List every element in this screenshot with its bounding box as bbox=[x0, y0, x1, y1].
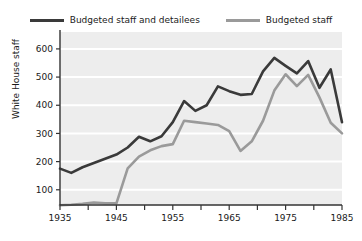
legend-label-budgeted-staff-and-detailees: Budgeted staff and detailees bbox=[70, 16, 200, 25]
chart-legend: Budgeted staff and detailees Budgeted st… bbox=[0, 12, 362, 28]
y-tick-label: 500 bbox=[36, 72, 53, 82]
y-tick-label: 200 bbox=[36, 157, 53, 167]
y-tick-label: 600 bbox=[36, 44, 53, 54]
legend-entry-budgeted-staff-and-detailees: Budgeted staff and detailees bbox=[30, 16, 200, 25]
legend-entry-budgeted-staff: Budgeted staff bbox=[226, 16, 332, 25]
chart-figure: Budgeted staff and detailees Budgeted st… bbox=[0, 0, 362, 241]
y-tick-label: 300 bbox=[36, 129, 53, 139]
y-tick-label: 100 bbox=[36, 185, 53, 195]
x-tick-label: 1935 bbox=[49, 213, 72, 223]
y-tick-label: 400 bbox=[36, 100, 53, 110]
y-axis-title: White House staff bbox=[11, 19, 21, 139]
x-tick-label: 1955 bbox=[161, 213, 184, 223]
legend-label-budgeted-staff: Budgeted staff bbox=[266, 16, 332, 25]
x-tick-label: 1975 bbox=[274, 213, 297, 223]
x-tick-label: 1965 bbox=[218, 213, 241, 223]
legend-swatch-dark bbox=[30, 19, 64, 22]
legend-swatch-gray bbox=[226, 19, 260, 22]
x-tick-label: 1945 bbox=[105, 213, 128, 223]
x-tick-label: 1985 bbox=[331, 213, 354, 223]
chart-plot-area: 100200300400500600 193519451955196519751… bbox=[0, 0, 362, 241]
